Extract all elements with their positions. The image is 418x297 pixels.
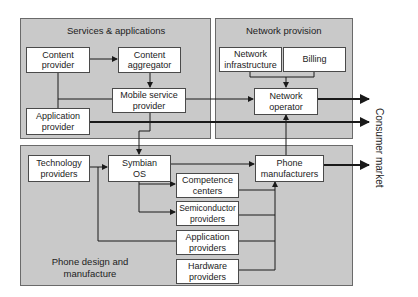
semiconductor-providers-node: Semiconductor providers xyxy=(176,201,239,226)
application-providers-label: Application providers xyxy=(185,232,229,253)
network-operator-label: Network operator xyxy=(269,91,303,112)
billing-node: Billing xyxy=(283,47,346,72)
network-operator-node: Network operator xyxy=(254,88,318,115)
hardware-providers-label: Hardware providers xyxy=(188,261,227,282)
application-provider-node: Application provider xyxy=(26,108,90,135)
content-aggregator-node: Content aggregator xyxy=(118,47,181,73)
content-aggregator-label: Content aggregator xyxy=(128,50,172,71)
symbian-os-label: Symbian OS xyxy=(122,158,157,179)
hardware-providers-node: Hardware providers xyxy=(176,259,239,284)
technology-providers-node: Technology providers xyxy=(28,155,90,182)
symbian-os-node: Symbian OS xyxy=(108,155,171,182)
phone-manufacturers-node: Phone manufacturers xyxy=(255,155,324,182)
competence-centers-label: Competence centers xyxy=(182,175,233,196)
competence-centers-node: Competence centers xyxy=(176,173,239,198)
semiconductor-providers-label: Semiconductor providers xyxy=(179,203,236,224)
application-provider-label: Application provider xyxy=(36,111,80,132)
technology-providers-label: Technology providers xyxy=(36,158,82,179)
network-infrastructure-node: Network infrastructure xyxy=(219,47,282,72)
application-providers-node: Application providers xyxy=(176,230,239,255)
mobile-service-provider-node: Mobile service provider xyxy=(112,88,186,113)
network-infrastructure-label: Network infrastructure xyxy=(224,49,277,70)
billing-label: Billing xyxy=(302,54,326,65)
consumer-market-label: Consumer market xyxy=(374,108,385,187)
mobile-service-provider-label: Mobile service provider xyxy=(120,90,178,111)
phone-manufacturers-label: Phone manufacturers xyxy=(261,158,319,179)
content-provider-label: Content provider xyxy=(42,50,75,71)
content-provider-node: Content provider xyxy=(26,47,90,73)
